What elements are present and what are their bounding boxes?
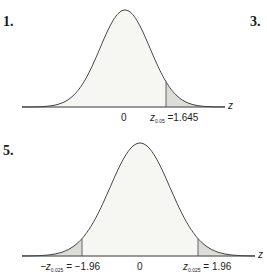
cutoff-label-1: z0.05 =1.645 bbox=[150, 112, 198, 124]
curve-2-fill bbox=[22, 143, 255, 256]
axis-label-z-1: z bbox=[228, 100, 233, 111]
curve-1-fill bbox=[22, 10, 225, 107]
left-cutoff-label: −z0.025 = −1.96 bbox=[40, 261, 100, 273]
curve-2-ltail bbox=[22, 239, 82, 256]
axis-label-z-2: z bbox=[258, 249, 263, 260]
mean-label-1: 0 bbox=[121, 112, 127, 123]
mean-label-2: 0 bbox=[137, 261, 143, 272]
curve-2-rtail bbox=[198, 239, 255, 256]
normal-curves bbox=[0, 0, 267, 278]
right-cutoff-label: z0.025 = 1.96 bbox=[183, 261, 231, 273]
